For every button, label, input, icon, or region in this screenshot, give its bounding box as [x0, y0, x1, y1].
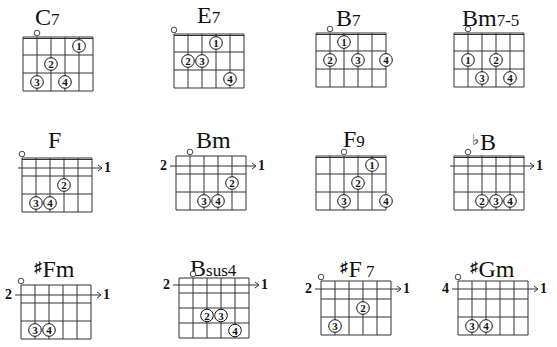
finger-number: 3	[469, 320, 475, 332]
barre-finger-label: 1	[540, 282, 547, 296]
finger-number: 4	[483, 320, 489, 332]
fretboard-grid: 34	[0, 0, 557, 347]
fret-position-label: 4	[442, 282, 449, 296]
open-string-icon	[455, 274, 461, 280]
